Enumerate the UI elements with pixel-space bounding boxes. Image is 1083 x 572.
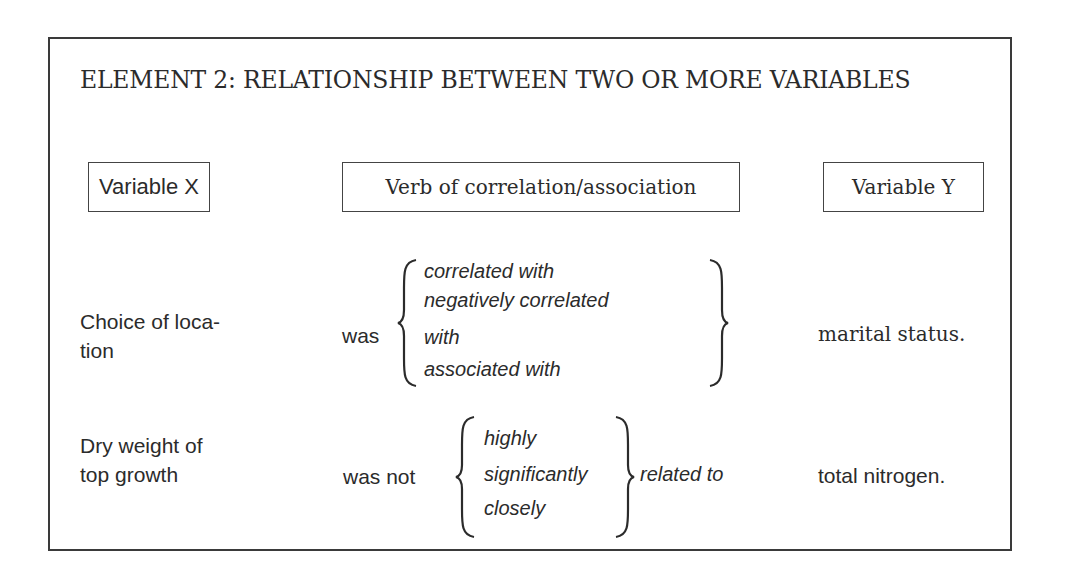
left-brace-icon [396,258,420,388]
example-2-option-3: closely [484,495,545,522]
example-2-option-2: significantly [484,461,587,488]
example-2-verb-suffix: related to [640,461,723,488]
example-1-option-2: negatively correlated [424,287,609,314]
example-2-variable-x-line-1: Dry weight of [80,431,203,460]
left-brace-icon [454,415,478,539]
example-1-option-3: with [424,324,460,351]
example-1-verb-prefix: was [342,321,379,350]
example-1-option-1: correlated with [424,258,554,285]
example-2-variable-x-line-2: top growth [80,460,178,489]
example-2-verb-prefix: was not [343,462,415,491]
verb-header-label: Verb of correlation/association [386,175,697,199]
verb-header: Verb of correlation/association [342,162,740,212]
right-brace-icon [612,415,636,539]
example-1-variable-y: marital status. [818,320,965,349]
variable-x-header-label: Variable X [99,174,199,200]
variable-x-header: Variable X [88,162,210,212]
section-title: ELEMENT 2: RELATIONSHIP BETWEEN TWO OR M… [80,66,910,94]
example-2-variable-y: total nitrogen. [818,461,945,490]
example-1-option-4: associated with [424,356,561,383]
example-2-option-1: highly [484,425,536,452]
example-1-variable-x-line-1: Choice of loca- [80,307,220,336]
right-brace-icon [706,258,730,388]
example-1-variable-x-line-2: tion [80,336,114,365]
variable-y-header-label: Variable Y [852,175,955,199]
variable-y-header: Variable Y [823,162,984,212]
